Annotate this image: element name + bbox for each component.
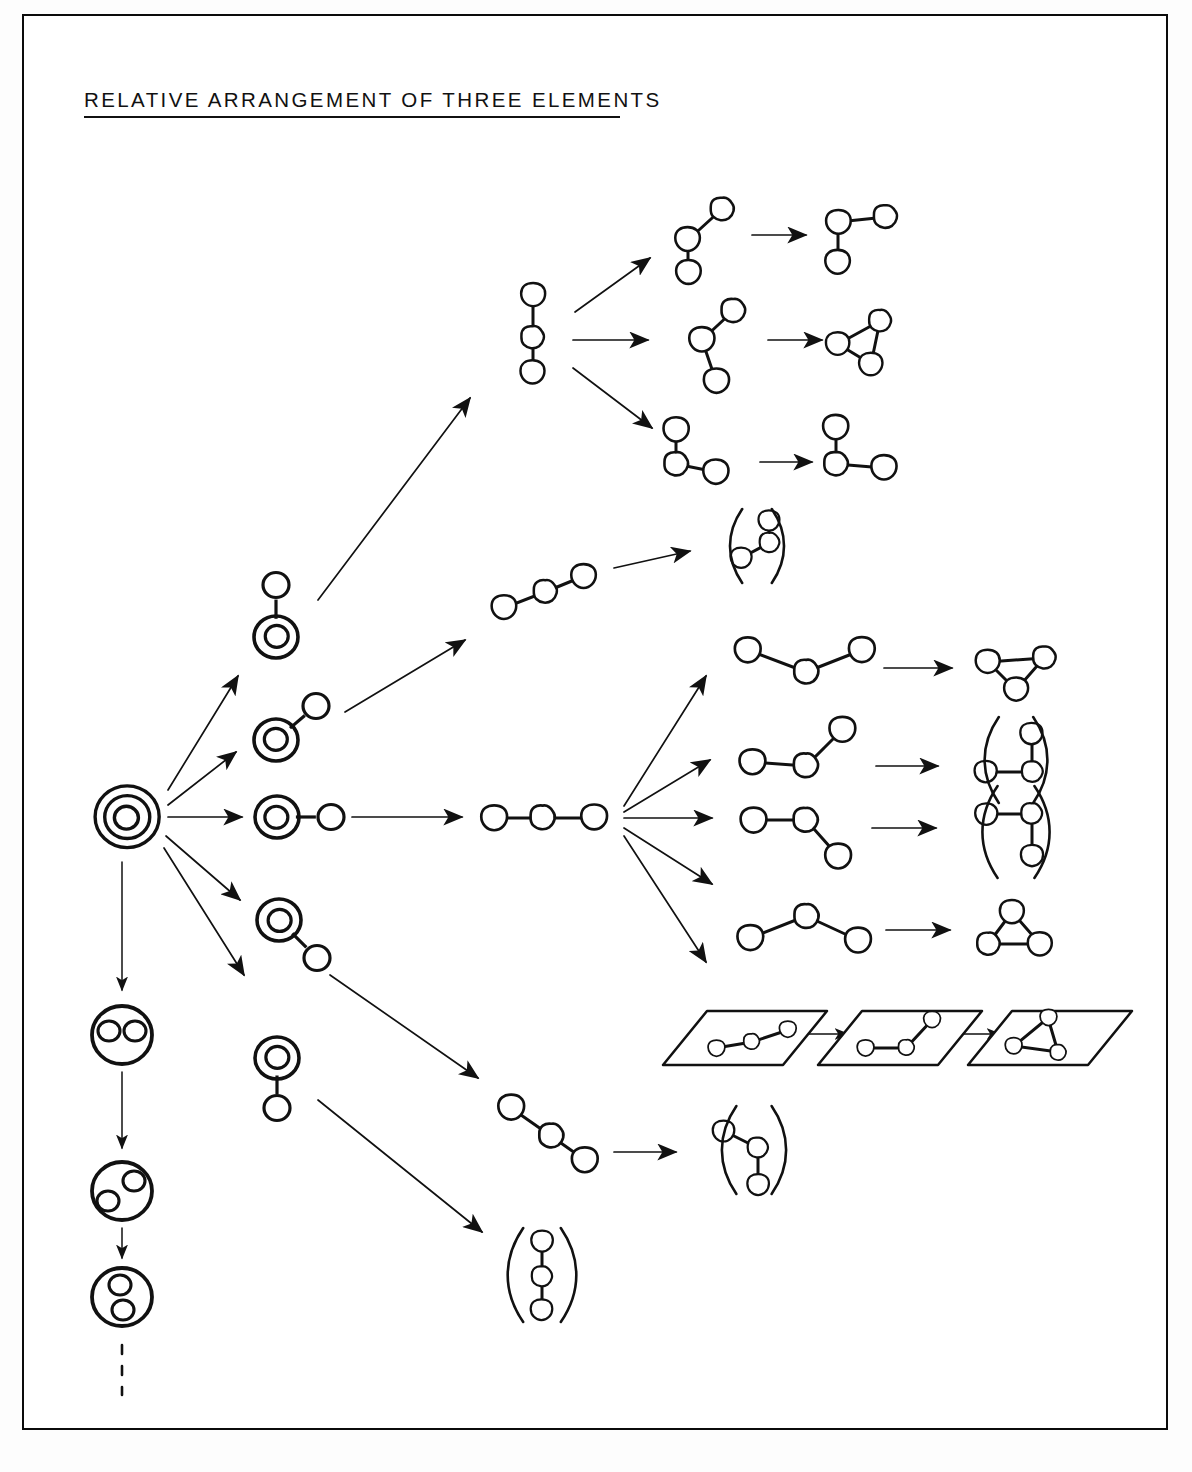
drawing-sheet: RELATIVE ARRANGEMENT OF THREE ELEMENTS <box>0 0 1192 1472</box>
title-underline <box>84 116 620 118</box>
page-frame <box>22 14 1168 1430</box>
page-title: RELATIVE ARRANGEMENT OF THREE ELEMENTS <box>84 90 662 111</box>
title-block: RELATIVE ARRANGEMENT OF THREE ELEMENTS <box>84 90 662 118</box>
